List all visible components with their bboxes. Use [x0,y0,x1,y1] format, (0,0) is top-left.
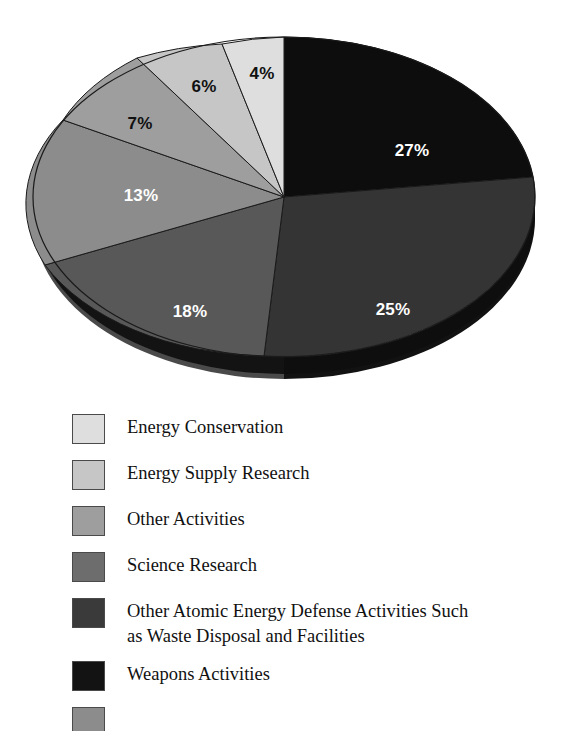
slice-label-27: 27% [395,141,430,160]
pie-chart-svg: 27% 25% 18% 13% 7% 6% 4% [0,0,580,400]
legend-label: Energy Conservation [127,414,567,440]
legend-swatch-icon [72,506,105,536]
legend-swatch-icon [72,598,105,628]
slice-label-6: 6% [192,77,217,96]
legend-label: Other Atomic Energy Defense Activities S… [127,598,567,649]
legend-swatch-icon [72,707,105,731]
chart-legend: Energy Conservation Energy Supply Resear… [0,414,580,731]
legend-item-energy-conservation[interactable]: Energy Conservation [0,414,580,444]
slice-label-18: 18% [173,302,208,321]
pie-slice-weapons-activities[interactable] [284,37,533,197]
slice-label-13: 13% [124,186,159,205]
slice-label-7: 7% [128,114,153,133]
legend-swatch-icon [72,661,105,691]
legend-label: Other Activities [127,506,567,532]
legend-label: Science Research [127,552,567,578]
legend-item-energy-supply-research[interactable]: Energy Supply Research [0,460,580,490]
legend-item-clipped[interactable] [0,707,580,731]
pie-slice-other-atomic-energy-defense[interactable] [264,177,535,357]
slice-label-4: 4% [250,64,275,83]
legend-label: Energy Supply Research [127,460,567,486]
slice-label-25: 25% [376,300,411,319]
legend-label: Weapons Activities [127,661,567,687]
legend-swatch-icon [72,552,105,582]
legend-item-other-activities[interactable]: Other Activities [0,506,580,536]
pie-chart-figure: 27% 25% 18% 13% 7% 6% 4% [0,0,580,400]
legend-item-weapons-activities[interactable]: Weapons Activities [0,661,580,691]
legend-swatch-icon [72,460,105,490]
pie-slices [26,37,535,357]
legend-swatch-icon [72,414,105,444]
legend-item-science-research[interactable]: Science Research [0,552,580,582]
legend-label [127,707,567,708]
legend-item-other-atomic-energy-defense[interactable]: Other Atomic Energy Defense Activities S… [0,598,580,649]
